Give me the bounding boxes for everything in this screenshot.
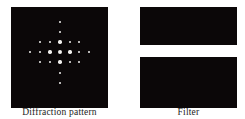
diffraction-spot bbox=[58, 40, 61, 43]
diffraction-pattern-caption: Diffraction pattern bbox=[11, 107, 108, 117]
diffraction-spot bbox=[48, 50, 51, 53]
filter-bottom-block bbox=[140, 57, 237, 108]
filter-caption: Filter bbox=[140, 107, 237, 117]
filter-top-block bbox=[140, 7, 237, 45]
diffraction-spot bbox=[58, 60, 61, 63]
diffraction-spot bbox=[68, 50, 71, 53]
